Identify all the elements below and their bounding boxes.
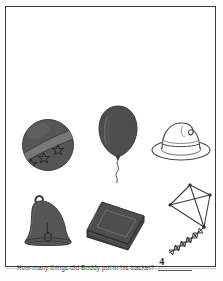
answer-line xyxy=(158,270,192,271)
balloon-illustration xyxy=(94,104,142,186)
page-frame: How many things did Buddy put in his bas… xyxy=(5,6,216,267)
answer-value[interactable]: 4 xyxy=(159,257,164,267)
question-row: How many things did Buddy put in his bas… xyxy=(17,258,219,272)
answer-blank[interactable]: 4 xyxy=(158,259,196,272)
bell-illustration xyxy=(20,193,76,251)
book-illustration xyxy=(84,200,146,252)
ball-illustration xyxy=(20,117,76,173)
footer-rule xyxy=(6,268,216,269)
worksheet-page: How many things did Buddy put in his bas… xyxy=(0,0,223,281)
kite-illustration xyxy=(164,183,222,261)
hat-illustration xyxy=(150,117,212,165)
